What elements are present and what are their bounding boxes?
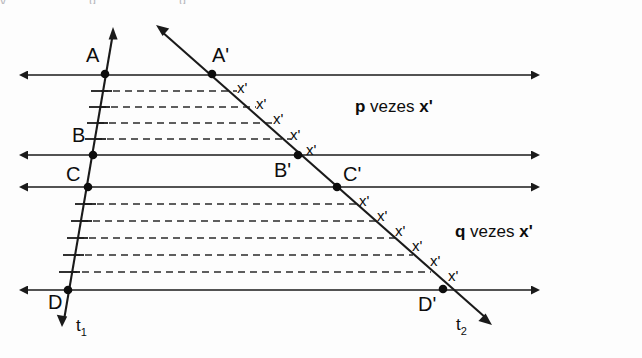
label-t2-subscript: 2 [461, 325, 467, 337]
unit-label-x-prime: x' [448, 267, 459, 284]
unit-label-x-prime: x' [273, 110, 284, 127]
image-credit: Banco de imagens/Arquivo da editora [628, 0, 640, 34]
unit-label-x-prime: x' [430, 252, 441, 269]
label-transversal-t2: t2 [456, 315, 467, 337]
label-point-D-prime: D' [418, 293, 436, 315]
annotation-q-unit: x' [519, 222, 533, 241]
annotation-p-unit: x' [419, 97, 433, 116]
label-point-A-prime: A' [212, 44, 229, 66]
label-point-A: A [86, 44, 100, 66]
annotation-q-count: q [455, 222, 465, 241]
point-A-prime [208, 70, 217, 79]
unit-labels-upper: x' x' x' x' x' [237, 79, 317, 158]
unit-label-x-prime: x' [395, 222, 406, 239]
annotation-p-vezes: p vezes x' [355, 97, 433, 116]
label-t1-subscript: 1 [81, 326, 87, 338]
label-point-C: C [66, 163, 80, 185]
t2-arrowhead-bottom [478, 313, 492, 325]
point-B [89, 151, 98, 160]
annotation-q-vezes: q vezes x' [455, 222, 533, 241]
unit-label-x-prime: x' [290, 126, 301, 143]
annotation-q-text: vezes [465, 222, 519, 241]
point-C-prime [333, 183, 342, 192]
unit-label-x-prime: x' [256, 95, 267, 112]
t1-arrowhead-top [109, 27, 118, 40]
point-A [101, 70, 110, 79]
transversal-t2 [156, 25, 492, 325]
unit-label-x-prime: x' [306, 141, 317, 158]
label-point-D: D [48, 291, 62, 313]
unit-labels-lower: x' x' x' x' x' x' [359, 192, 459, 284]
geometry-figure: y g g [0, 0, 642, 358]
point-D-prime [439, 285, 448, 294]
label-point-C-prime: C' [343, 163, 361, 185]
t2-arrowhead-top [156, 25, 169, 36]
label-point-B-prime: B' [274, 159, 291, 181]
label-transversal-t1: t1 [76, 316, 87, 338]
unit-label-x-prime: x' [412, 237, 423, 254]
annotation-p-count: p [355, 97, 365, 116]
annotation-p-text: vezes [365, 97, 419, 116]
unit-label-x-prime: x' [237, 79, 248, 96]
point-C [84, 183, 93, 192]
t1-arrowhead-bottom [57, 315, 67, 327]
point-B-prime [294, 151, 303, 160]
diagram-canvas: A B C D A' B' C' D' x' x' x' x' x' x' x'… [0, 0, 642, 358]
unit-label-x-prime: x' [377, 207, 388, 224]
unit-label-x-prime: x' [359, 192, 370, 209]
label-point-B: B [72, 124, 85, 146]
point-D [64, 286, 73, 295]
